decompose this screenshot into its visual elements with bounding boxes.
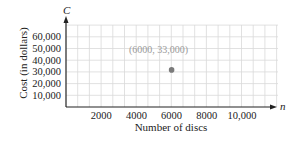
y-tick-label: 10,000: [32, 90, 61, 101]
y-axis-title: Cost (in dollars): [17, 27, 30, 99]
y-tick-label: 40,000: [32, 55, 61, 66]
data-points: (6000, 33,000): [129, 44, 188, 72]
y-variable-label: C: [63, 4, 71, 16]
x-axis-arrow-icon: [270, 105, 277, 110]
x-axis-title: Number of discs: [135, 121, 208, 133]
y-tick-label: 30,000: [32, 66, 61, 77]
cost-vs-discs-chart: 10,00020,00030,00040,00050,00060,000 200…: [0, 0, 298, 141]
x-tick-label: 4000: [126, 110, 147, 121]
x-tick-label: 6000: [161, 110, 182, 121]
data-point: [169, 67, 175, 73]
y-tick-label: 50,000: [32, 43, 61, 54]
y-tick-label: 20,000: [32, 78, 61, 89]
grid-lines: [66, 25, 278, 107]
x-variable-label: n: [280, 100, 286, 112]
x-tick-label: 10,000: [228, 110, 257, 121]
y-tick-label: 60,000: [32, 31, 61, 42]
y-axis-arrow-icon: [64, 16, 69, 23]
data-point-label: (6000, 33,000): [129, 44, 188, 56]
y-tick-labels: 10,00020,00030,00040,00050,00060,000: [32, 31, 61, 101]
x-tick-labels: 200040006000800010,000: [91, 110, 257, 121]
x-tick-label: 2000: [91, 110, 112, 121]
x-tick-label: 8000: [196, 110, 217, 121]
